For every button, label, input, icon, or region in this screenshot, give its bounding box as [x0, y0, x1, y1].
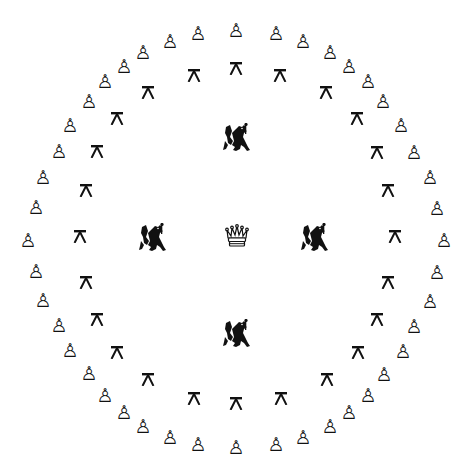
stool-piece[interactable] — [187, 391, 201, 405]
stool-icon — [90, 144, 104, 158]
stool-icon — [110, 111, 124, 125]
gryphon-icon — [220, 319, 252, 349]
pawn-piece[interactable]: ♙ — [161, 428, 178, 447]
stool-icon — [187, 391, 201, 405]
pawn-piece[interactable]: ♙ — [50, 316, 67, 335]
pawn-piece[interactable]: ♙ — [294, 32, 311, 51]
stool-icon — [319, 85, 333, 99]
pawn-piece[interactable]: ♙ — [115, 57, 132, 76]
stool-icon — [350, 111, 364, 125]
pawn-piece[interactable]: ♙ — [27, 198, 44, 217]
pawn-piece[interactable]: ♙ — [34, 168, 51, 187]
stool-icon — [388, 229, 402, 243]
pawn-piece[interactable]: ♙ — [227, 21, 244, 40]
stool-icon — [274, 391, 288, 405]
pawn-piece[interactable]: ♙ — [374, 92, 391, 111]
stool-icon — [79, 183, 93, 197]
pawn-piece[interactable]: ♙ — [27, 262, 44, 281]
stool-icon — [110, 345, 124, 359]
stool-piece[interactable] — [273, 68, 287, 82]
pawn-piece[interactable]: ♙ — [359, 386, 376, 405]
stool-icon — [370, 312, 384, 326]
stool-piece[interactable] — [351, 345, 365, 359]
stool-icon — [273, 68, 287, 82]
pawn-piece[interactable]: ♙ — [61, 341, 78, 360]
pawn-piece[interactable]: ♙ — [80, 364, 97, 383]
stool-piece[interactable] — [90, 312, 104, 326]
pawn-piece[interactable]: ♙ — [267, 435, 284, 454]
pawn-piece[interactable]: ♙ — [392, 116, 409, 135]
stool-icon — [229, 396, 243, 410]
pawn-piece[interactable]: ♙ — [189, 24, 206, 43]
pawn-piece[interactable]: ♙ — [421, 292, 438, 311]
stool-piece[interactable] — [381, 275, 395, 289]
stool-piece[interactable] — [370, 312, 384, 326]
stool-piece[interactable] — [370, 145, 384, 159]
stool-piece[interactable] — [141, 85, 155, 99]
stool-icon — [141, 85, 155, 99]
pawn-piece[interactable]: ♙ — [375, 365, 392, 384]
stool-piece[interactable] — [350, 111, 364, 125]
stool-piece[interactable] — [319, 85, 333, 99]
pawn-piece[interactable]: ♙ — [340, 403, 357, 422]
stool-icon — [370, 145, 384, 159]
stool-piece[interactable] — [73, 229, 87, 243]
gryphon-icon — [136, 223, 168, 253]
stool-piece[interactable] — [388, 229, 402, 243]
stool-piece[interactable] — [141, 372, 155, 386]
game-board: ♙♙♙♙♙♙♙♙♙♙♙♙♙♙♙♙♙♙♙♙♙♙♙♙♙♙♙♙♙♙♙♙♙♙♙♙♙♙♙♙… — [0, 0, 474, 475]
stool-piece[interactable] — [187, 68, 201, 82]
pawn-piece[interactable]: ♙ — [321, 417, 338, 436]
pawn-piece[interactable]: ♙ — [405, 317, 422, 336]
pawn-piece[interactable]: ♙ — [80, 92, 97, 111]
pawn-piece[interactable]: ♙ — [134, 417, 151, 436]
pawn-piece[interactable]: ♙ — [189, 435, 206, 454]
stool-piece[interactable] — [90, 144, 104, 158]
pawn-piece[interactable]: ♙ — [359, 72, 376, 91]
stool-piece[interactable] — [110, 345, 124, 359]
pawn-piece[interactable]: ♙ — [61, 116, 78, 135]
pawn-piece[interactable]: ♙ — [267, 24, 284, 43]
gryphon-icon — [298, 223, 330, 253]
stool-icon — [73, 229, 87, 243]
pawn-piece[interactable]: ♙ — [421, 168, 438, 187]
gryphon-piece[interactable] — [136, 223, 168, 253]
pawn-piece[interactable]: ♙ — [428, 199, 445, 218]
pawn-piece[interactable]: ♙ — [96, 386, 113, 405]
pawn-piece[interactable]: ♙ — [50, 142, 67, 161]
pawn-piece[interactable]: ♙ — [96, 72, 113, 91]
crown-icon — [224, 224, 250, 248]
stool-piece[interactable] — [229, 396, 243, 410]
pawn-piece[interactable]: ♙ — [227, 438, 244, 457]
stool-piece[interactable] — [110, 111, 124, 125]
stool-icon — [90, 312, 104, 326]
pawn-piece[interactable]: ♙ — [394, 342, 411, 361]
pawn-piece[interactable]: ♙ — [19, 231, 36, 250]
stool-icon — [381, 275, 395, 289]
pawn-piece[interactable]: ♙ — [435, 231, 452, 250]
stool-icon — [79, 275, 93, 289]
queen-piece[interactable] — [224, 224, 250, 248]
pawn-piece[interactable]: ♙ — [294, 428, 311, 447]
pawn-piece[interactable]: ♙ — [115, 403, 132, 422]
pawn-piece[interactable]: ♙ — [134, 43, 151, 62]
pawn-piece[interactable]: ♙ — [34, 291, 51, 310]
stool-icon — [351, 345, 365, 359]
stool-icon — [229, 61, 243, 75]
stool-icon — [320, 372, 334, 386]
stool-piece[interactable] — [274, 391, 288, 405]
pawn-piece[interactable]: ♙ — [340, 57, 357, 76]
stool-icon — [187, 68, 201, 82]
pawn-piece[interactable]: ♙ — [161, 32, 178, 51]
pawn-piece[interactable]: ♙ — [321, 43, 338, 62]
stool-piece[interactable] — [79, 275, 93, 289]
stool-piece[interactable] — [229, 61, 243, 75]
pawn-piece[interactable]: ♙ — [405, 143, 422, 162]
stool-piece[interactable] — [320, 372, 334, 386]
gryphon-piece[interactable] — [298, 223, 330, 253]
stool-piece[interactable] — [79, 183, 93, 197]
pawn-piece[interactable]: ♙ — [428, 263, 445, 282]
stool-piece[interactable] — [381, 183, 395, 197]
gryphon-piece[interactable] — [220, 123, 252, 153]
gryphon-piece[interactable] — [220, 319, 252, 349]
